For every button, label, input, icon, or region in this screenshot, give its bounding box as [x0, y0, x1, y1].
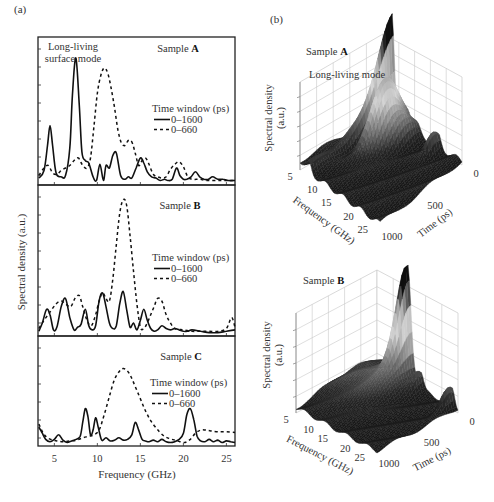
z-tick	[297, 111, 300, 112]
legend: Time window (ps)0–16000–660	[150, 377, 228, 409]
y-axis-label: Spectral density (a.u.)	[15, 213, 28, 310]
frequency-tick-label: 5	[287, 171, 292, 182]
legend: Time window (ps)0–16000–660	[152, 252, 230, 284]
series-0-1600	[39, 291, 235, 332]
frequency-tick-label: 25	[354, 452, 365, 463]
x-axis-label: Frequency (GHz)	[98, 468, 176, 481]
time-tick-label: 0	[473, 168, 478, 179]
z-tick	[293, 396, 296, 397]
z-tick	[293, 346, 296, 347]
subplot-sample-b: Sample BTime window (ps)0–16000–660	[38, 185, 235, 336]
figure-canvas: (a) Sample ATime window (ps)0–16000–660L…	[0, 0, 494, 502]
annotation: Long-living mode	[309, 69, 385, 80]
annotation-line-1: Long-living	[48, 41, 99, 52]
frequency-tick-label: 20	[343, 211, 354, 222]
z-tick	[293, 380, 296, 381]
time-axis-label: Time (ps)	[411, 445, 453, 475]
sample-title: Sample B	[159, 200, 200, 211]
legend: Time window (ps)0–16000–660	[152, 103, 230, 135]
x-tick-label: 15	[135, 453, 146, 464]
z-axis-unit: (a.u.)	[273, 343, 285, 366]
z-tick	[297, 141, 300, 142]
time-tick-label: 1000	[382, 231, 403, 242]
z-axis-label: Spectral density	[261, 321, 272, 389]
series-0-1600	[39, 408, 235, 442]
frequency-tick-label: 10	[303, 424, 314, 435]
z-axis-unit: (a.u.)	[275, 106, 287, 129]
time-tick-label: 1000	[379, 458, 400, 469]
frequency-tick-label: 15	[318, 433, 329, 444]
sample-title: Sample A	[157, 43, 199, 54]
subplot-sample-a: Sample ATime window (ps)0–16000–660Long-…	[38, 37, 235, 185]
x-tick-label: 25	[221, 453, 232, 464]
panel-a: (a) Sample ATime window (ps)0–16000–660L…	[14, 3, 235, 481]
time-axis-label: Time (ps)	[415, 206, 455, 241]
x-tick-label: 10	[92, 453, 103, 464]
panel-b-label: (b)	[270, 13, 283, 26]
x-axis-ticks: 510152025	[52, 453, 232, 464]
z-tick	[293, 330, 296, 331]
frequency-tick-label: 10	[307, 184, 318, 195]
time-tick-label: 500	[427, 200, 443, 211]
panel-a-label: (a)	[14, 3, 27, 16]
surface-plot-sample-b: Sample BSpectral density(a.u.)510152025F…	[261, 265, 475, 478]
sample-title: Sample C	[160, 351, 202, 362]
x-tick-label: 20	[178, 453, 189, 464]
annotation-line-2: surface mode	[45, 53, 102, 64]
sample-title: Sample B	[303, 275, 344, 286]
z-tick	[297, 155, 300, 156]
series-0-1600	[39, 58, 235, 181]
subplot-sample-c: Sample CTime window (ps)0–16000–660	[38, 336, 235, 446]
frequency-tick-label: 25	[357, 224, 368, 235]
time-tick-label: 500	[424, 437, 440, 448]
z-tick	[297, 126, 300, 127]
z-axis-label: Spectral density	[263, 84, 274, 152]
z-tick	[297, 97, 300, 98]
frequency-tick-label: 15	[321, 197, 332, 208]
sample-title: Sample A	[306, 46, 348, 57]
frequency-tick-label: 20	[340, 443, 351, 454]
x-tick-label: 5	[52, 453, 57, 464]
legend-entry: 0–660	[169, 398, 195, 409]
time-tick-label: 0	[469, 416, 474, 427]
surface-plot-sample-a: Sample ALong-living modeSpectral density…	[263, 14, 479, 248]
frequency-tick-label: 5	[283, 414, 288, 425]
legend-entry: 0–660	[171, 273, 197, 284]
panel-b: (b) Sample ALong-living modeSpectral den…	[261, 13, 479, 478]
legend-entry: 0–660	[171, 124, 197, 135]
z-tick	[293, 363, 296, 364]
